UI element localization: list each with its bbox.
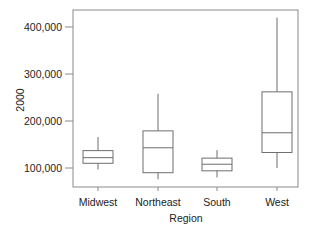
box-west [262,18,292,168]
iqr-box [262,92,292,153]
box-series [83,18,292,180]
iqr-box [143,131,173,173]
iqr-box [83,151,113,164]
x-tick-label-northeast: Northeast [135,196,181,208]
y-tick-label: 300,000 [24,68,62,80]
y-axis: 100,000200,000300,000400,000 [24,21,73,174]
box-northeast [143,94,173,180]
x-axis-title: Region [169,212,202,224]
y-axis-title: 2000 [14,88,26,112]
y-tick-label: 100,000 [24,162,62,174]
x-axis: MidwestNortheastSouthWest [79,187,289,208]
box-south [202,150,232,177]
x-tick-label-west: West [265,196,289,208]
y-tick-label: 200,000 [24,115,62,127]
x-tick-label-south: South [203,196,231,208]
x-tick-label-midwest: Midwest [79,196,118,208]
plot-frame [73,10,298,187]
box-midwest [83,137,113,169]
y-tick-label: 400,000 [24,21,62,33]
box-plot-chart: 100,000200,000300,000400,000 MidwestNort… [0,0,319,235]
